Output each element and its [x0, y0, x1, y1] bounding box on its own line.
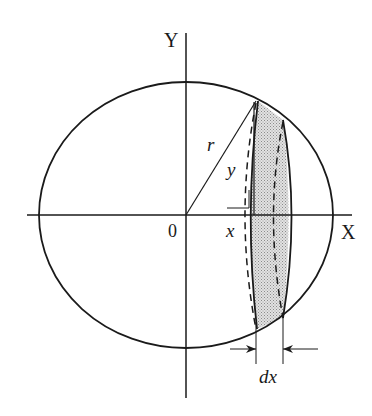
x-axis-label: X [341, 221, 356, 243]
y-axis-label: Y [164, 29, 178, 51]
height-label: y [225, 159, 236, 180]
radius-label: r [207, 134, 215, 155]
width-label: dx [259, 366, 278, 387]
radius-line [186, 101, 256, 215]
circle-slice-diagram: Y X 0 r y x dx [0, 0, 372, 416]
position-label: x [225, 220, 235, 241]
origin-label: 0 [168, 221, 177, 241]
